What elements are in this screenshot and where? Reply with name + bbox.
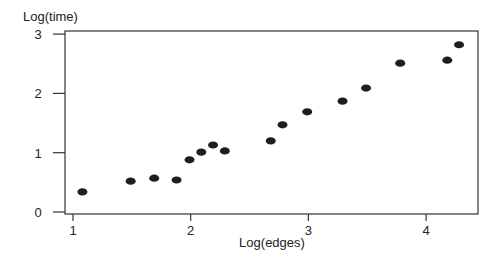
- y-tick-label: 1: [34, 146, 41, 161]
- x-tick-label: 3: [305, 223, 312, 238]
- y-tick-label: 3: [34, 27, 41, 42]
- data-point: [442, 57, 452, 64]
- y-tick-label: 2: [34, 86, 41, 101]
- data-point: [149, 175, 159, 182]
- data-point: [338, 98, 348, 105]
- y-axis-label: Log(time): [23, 9, 78, 24]
- x-tick-label: 2: [187, 223, 194, 238]
- data-point: [185, 156, 195, 163]
- x-tick-label: 1: [69, 223, 76, 238]
- y-axis: 0123: [34, 27, 65, 220]
- data-point: [278, 121, 288, 128]
- data-point: [77, 188, 87, 195]
- x-axis-label: Log(edges): [239, 235, 305, 250]
- data-point: [208, 141, 218, 148]
- data-point: [266, 137, 276, 144]
- scatter-chart: 0123 1234 Log(time) Log(edges): [0, 0, 502, 267]
- data-point: [220, 147, 230, 154]
- data-point: [196, 149, 206, 156]
- data-point: [302, 108, 312, 115]
- y-tick-label: 0: [34, 205, 41, 220]
- data-points: [77, 41, 464, 195]
- data-point: [361, 84, 371, 91]
- data-point: [126, 178, 136, 185]
- plot-frame: [65, 31, 478, 214]
- data-point: [395, 60, 405, 67]
- data-point: [454, 41, 464, 48]
- data-point: [172, 176, 182, 183]
- x-tick-label: 4: [422, 223, 429, 238]
